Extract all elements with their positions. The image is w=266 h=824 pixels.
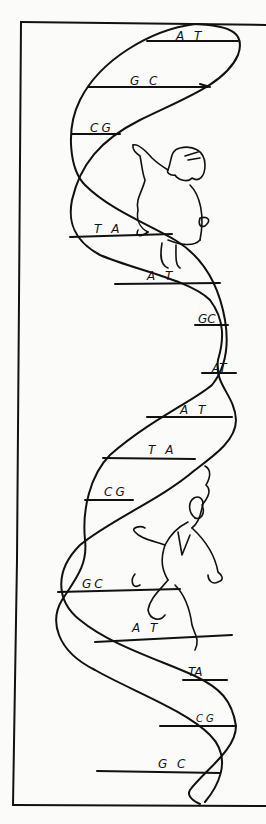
base-pair-label: GC	[82, 578, 106, 590]
base-pair-label: A T	[147, 270, 175, 282]
base-pair-label: AT	[212, 362, 227, 374]
dna-illustration: A T G C CG T A A T GC AT A T T A CG GC A…	[0, 0, 266, 824]
base-pair-label: A T	[180, 404, 208, 416]
base-pair-label: G C	[130, 75, 161, 87]
base-pair-label: A T	[176, 30, 204, 42]
helix-drawing	[0, 0, 266, 824]
base-pair-label: A T	[132, 622, 160, 634]
frame	[13, 22, 266, 806]
base-pair-label: TA	[188, 666, 202, 678]
helix-strand-b	[61, 24, 240, 804]
base-pair-label: CG	[104, 486, 128, 498]
base-pair-label: CG	[196, 714, 217, 724]
base-pair-label: GC	[198, 313, 216, 325]
base-pair-label: G C	[158, 758, 189, 770]
base-pair-label: T A	[94, 223, 122, 235]
base-pair-label: CG	[90, 122, 114, 134]
base-pair-label: T A	[148, 444, 176, 456]
upper-figure	[133, 145, 209, 268]
